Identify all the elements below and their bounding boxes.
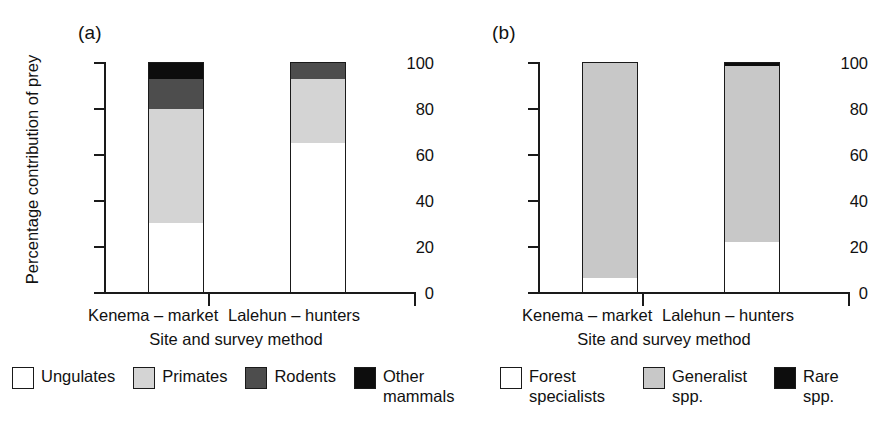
panel-a-plot-area <box>104 62 404 293</box>
segment-forest-specialists <box>725 242 779 292</box>
panels-row: (a) Percentage contribution of prey 0 20… <box>0 0 869 360</box>
segment-forest-specialists <box>583 278 637 292</box>
figure-stacked-bar-charts: (a) Percentage contribution of prey 0 20… <box>0 0 869 432</box>
legend-swatch-primates <box>133 367 155 389</box>
panel-a-x-axis-title: Site and survey method <box>0 330 434 349</box>
legend-label-other-mammals: Other mammals <box>383 366 469 406</box>
panel-a-ytick-100 <box>94 62 104 64</box>
panel-a-ytick-20 <box>94 246 104 248</box>
panel-a-y-axis-title: Percentage contribution of prey <box>23 40 42 300</box>
panel-a-xtick-label-lalehun: Lalehun – hunters <box>228 306 360 325</box>
legend-label-primates: Primates <box>162 366 227 386</box>
panel-a-ytick-60 <box>94 154 104 156</box>
legend-label-rare-spp: Rare spp. <box>803 366 851 406</box>
segment-other-mammals <box>149 63 203 79</box>
segment-generalist-spp <box>725 66 779 242</box>
panel-a: (a) Percentage contribution of prey 0 20… <box>0 0 434 360</box>
panel-b-plot-area <box>538 62 838 293</box>
legend-item-other-mammals[interactable]: Other mammals <box>354 366 469 406</box>
segment-ungulates <box>149 223 203 292</box>
legend-panel-b: Forest specialists Generalist spp. Rare … <box>500 366 851 406</box>
legend-item-rare-spp[interactable]: Rare spp. <box>774 366 851 406</box>
legend-swatch-ungulates <box>12 367 34 389</box>
panel-a-xtick-label-kenema: Kenema – market <box>88 306 218 325</box>
panel-b-bar-lalehun-hunters[interactable] <box>724 62 780 293</box>
segment-generalist-spp <box>583 63 637 278</box>
panel-a-xtick-end <box>414 294 416 306</box>
legend-label-forest-specialists: Forest specialists <box>529 366 625 406</box>
panel-b-letter: (b) <box>492 22 516 44</box>
panel-a-ytick-80 <box>94 108 104 110</box>
panel-b-ytick-80 <box>528 108 538 110</box>
panel-a-bar-kenema-market[interactable] <box>148 62 204 293</box>
panel-b-x-axis-title: Site and survey method <box>434 330 868 349</box>
panel-a-ytick-0 <box>94 292 104 294</box>
legend-label-generalist-spp: Generalist spp. <box>672 366 756 406</box>
panel-b-xtick-labels: Kenema – market Lalehun – hunters <box>494 306 868 330</box>
panel-b-xtick-label-kenema: Kenema – market <box>522 306 652 325</box>
panel-b-xtick-end <box>848 294 850 306</box>
segment-primates <box>291 79 345 143</box>
legend-item-forest-specialists[interactable]: Forest specialists <box>500 366 625 406</box>
segment-primates <box>149 109 203 224</box>
panel-a-letter: (a) <box>78 22 102 44</box>
panel-b-xtick-label-lalehun: Lalehun – hunters <box>662 306 794 325</box>
legend-swatch-forest-specialists <box>500 367 522 389</box>
segment-rodents <box>291 63 345 79</box>
legend-item-rodents[interactable]: Rodents <box>245 366 335 389</box>
panel-a-xtick-separator <box>208 294 210 306</box>
panel-a-xtick-labels: Kenema – market Lalehun – hunters <box>60 306 434 330</box>
legend-item-ungulates[interactable]: Ungulates <box>12 366 115 389</box>
legend-swatch-rare-spp <box>774 367 796 389</box>
panel-b-ytick-100 <box>528 62 538 64</box>
segment-rodents <box>149 79 203 109</box>
legend-panel-a: Ungulates Primates Rodents Other mammals <box>12 366 469 406</box>
legend-label-ungulates: Ungulates <box>41 366 115 386</box>
panel-b-ytick-60 <box>528 154 538 156</box>
panel-b-xtick-separator <box>642 294 644 306</box>
legend-swatch-generalist-spp <box>643 367 665 389</box>
legend-swatch-other-mammals <box>354 367 376 389</box>
panel-b-ytick-0 <box>528 292 538 294</box>
legend-item-primates[interactable]: Primates <box>133 366 227 389</box>
legend-swatch-rodents <box>245 367 267 389</box>
panel-a-ytick-40 <box>94 200 104 202</box>
panel-b-ytick-20 <box>528 246 538 248</box>
panel-b-ytick-40 <box>528 200 538 202</box>
legends-row: Ungulates Primates Rodents Other mammals… <box>0 366 869 432</box>
panel-a-bar-lalehun-hunters[interactable] <box>290 62 346 293</box>
segment-ungulates <box>291 143 345 292</box>
legend-label-rodents: Rodents <box>274 366 335 386</box>
panel-b: (b) 0 20 40 60 80 100 <box>434 0 868 360</box>
panel-b-bar-kenema-market[interactable] <box>582 62 638 293</box>
legend-item-generalist-spp[interactable]: Generalist spp. <box>643 366 756 406</box>
